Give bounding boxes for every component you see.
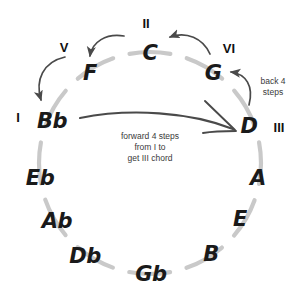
arrow-bb-to-d-head-lower — [203, 131, 236, 133]
note-label-ab[interactable]: Ab — [42, 211, 72, 232]
note-label-gb[interactable]: Gb — [135, 264, 166, 285]
note-label-b[interactable]: B — [203, 244, 219, 265]
circle-of-fifths-diagram: C G D A E B Gb Db Ab Eb Bb F I V II VI I… — [0, 0, 300, 302]
forward-steps-note: forward 4 steps from I to get III chord — [121, 131, 179, 164]
arrow-bb-to-d-shaft — [80, 113, 233, 129]
note-label-db[interactable]: Db — [69, 246, 100, 267]
note-label-c[interactable]: C — [143, 43, 158, 64]
note-label-d[interactable]: D — [241, 116, 258, 137]
numeral-label-i: I — [16, 111, 20, 124]
note-label-a[interactable]: A — [250, 168, 266, 189]
arrow-g-to-c — [170, 35, 210, 54]
note-label-f[interactable]: F — [83, 63, 97, 84]
note-label-e[interactable]: E — [233, 209, 247, 230]
numeral-label-iii: III — [274, 121, 285, 134]
numeral-label-vi: VI — [223, 42, 235, 55]
note-label-eb[interactable]: Eb — [26, 168, 54, 189]
note-label-bb[interactable]: Bb — [37, 111, 67, 132]
numeral-label-v: V — [60, 41, 69, 54]
numeral-label-ii: II — [142, 17, 149, 30]
note-label-g[interactable]: G — [205, 63, 222, 84]
arrow-bb-to-d-head-upper — [205, 101, 235, 130]
back-steps-note: back 4 steps — [260, 76, 285, 98]
arrow-c-to-f — [90, 35, 124, 56]
